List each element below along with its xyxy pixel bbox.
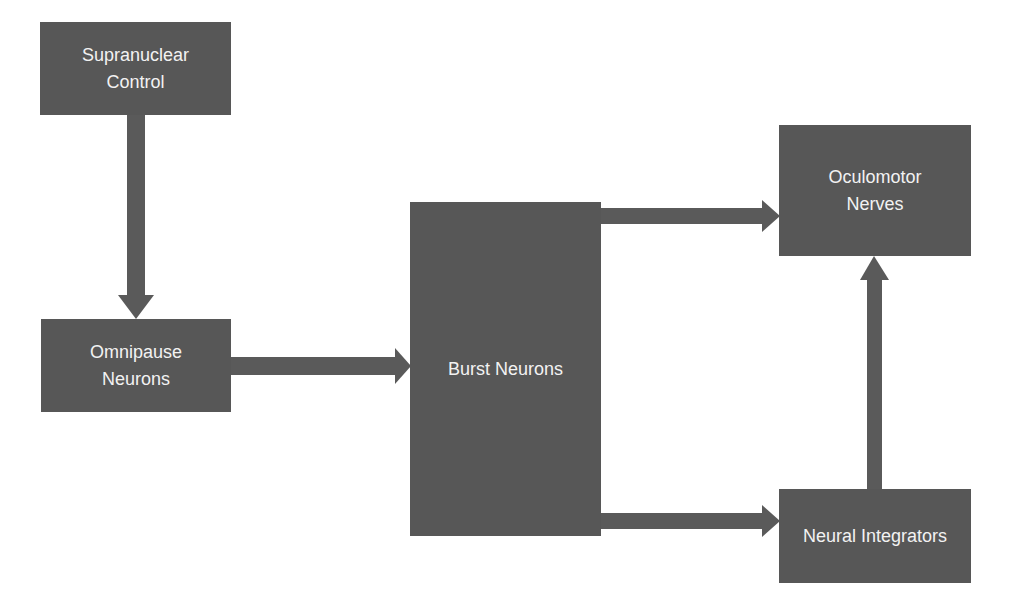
node-label-line: Supranuclear (82, 42, 189, 69)
node-label-line: Nerves (828, 191, 921, 218)
node-label-line: Burst Neurons (448, 356, 563, 383)
node-oculomotor-nerves: Oculomotor Nerves (779, 125, 971, 256)
node-label-line: Control (82, 69, 189, 96)
node-label-line: Oculomotor (828, 164, 921, 191)
node-label-line: Omnipause (90, 339, 182, 366)
node-label-line: Neural Integrators (803, 523, 947, 550)
arrow-burst-to-integrators (601, 505, 780, 537)
arrow-omnipause-to-burst (231, 348, 411, 384)
node-neural-integrators: Neural Integrators (779, 489, 971, 583)
arrow-burst-to-oculomotor (601, 200, 780, 232)
node-burst-neurons: Burst Neurons (410, 202, 601, 536)
arrow-supranuclear-to-omnipause (118, 115, 154, 319)
arrow-integrators-to-oculomotor (860, 256, 889, 489)
node-omnipause-neurons: Omnipause Neurons (41, 319, 231, 412)
node-label-line: Neurons (90, 366, 182, 393)
node-supranuclear-control: Supranuclear Control (40, 22, 231, 115)
